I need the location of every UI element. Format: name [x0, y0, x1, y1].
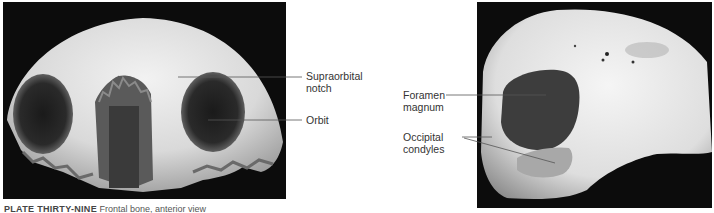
label-line: condyles	[403, 143, 444, 155]
label-line: Occipital	[403, 131, 444, 143]
label-foramen-magnum: Foramen magnum	[403, 89, 445, 113]
skull-inferior-illustration	[477, 2, 712, 208]
figure-caption: PLATE THIRTY-NINE Frontal bone, anterior…	[4, 204, 206, 213]
photo-frontal-bone	[3, 2, 286, 199]
caption-plate-number: PLATE THIRTY-NINE	[4, 204, 97, 213]
label-line: Supraorbital	[306, 70, 363, 82]
label-supraorbital-notch: Supraorbital notch	[306, 70, 363, 94]
label-occipital-condyles: Occipital condyles	[403, 131, 444, 155]
photo-occipital-bone	[477, 2, 712, 208]
label-orbit: Orbit	[306, 114, 329, 126]
skull-anterior-illustration	[3, 2, 286, 199]
label-line: Foramen	[403, 89, 445, 101]
label-line: magnum	[403, 101, 445, 113]
caption-text: Frontal bone, anterior view	[99, 204, 206, 213]
label-line: notch	[306, 82, 363, 94]
label-line: Orbit	[306, 114, 329, 126]
